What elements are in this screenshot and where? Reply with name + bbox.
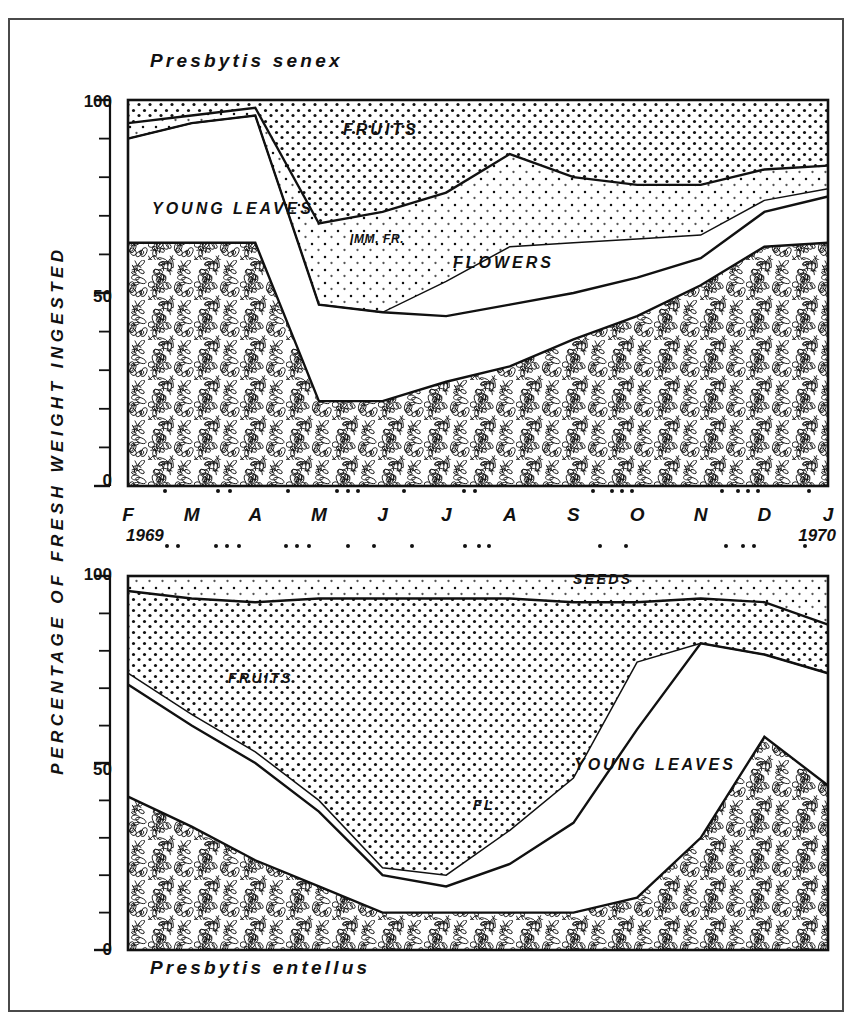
bottom-label-young-leaves: YOUNG LEAVES	[574, 756, 736, 774]
phenology-dot-upper-15	[736, 489, 740, 493]
phenology-dot-upper-5	[346, 489, 350, 493]
bottom-label-fl: FL.	[473, 797, 501, 813]
top-label-imm-fr: IMM. FR.	[350, 232, 404, 246]
top-ytick-50: 50	[60, 287, 112, 307]
phenology-dot-upper-7	[402, 489, 406, 493]
bottom-chart-plot	[10, 520, 860, 980]
bottom-ytick-100: 100	[60, 565, 112, 585]
figure-frame: PERCENTAGE OF FRESH WEIGHT INGESTED Pres…	[8, 18, 844, 1012]
top-label-flowers: FLOWERS	[453, 254, 554, 272]
phenology-dot-upper-12	[620, 489, 624, 493]
phenology-dot-upper-8	[462, 489, 466, 493]
phenology-dot-upper-0	[163, 489, 167, 493]
bottom-label-fruits: FRUITS	[228, 670, 293, 686]
top-chart-plot	[10, 20, 860, 520]
bottom-ytick-0: 0	[60, 940, 112, 960]
phenology-dot-upper-4	[335, 489, 339, 493]
phenology-dot-upper-11	[610, 489, 614, 493]
phenology-dot-upper-10	[591, 489, 595, 493]
phenology-dots-upper	[128, 489, 828, 501]
top-label-young-leaves: YOUNG LEAVES	[152, 200, 314, 218]
phenology-dot-upper-2	[228, 489, 232, 493]
phenology-dot-upper-14	[720, 489, 724, 493]
phenology-dot-upper-13	[630, 489, 634, 493]
phenology-dot-upper-6	[356, 489, 360, 493]
top-ytick-100: 100	[60, 92, 112, 112]
top-ytick-0: 0	[60, 471, 112, 491]
bottom-label-seeds: SEEDS	[573, 571, 632, 587]
top-label-fruits: FRUITS	[343, 121, 419, 139]
chart-presbytis-senex: Presbytis senex 100 50 0 YOUNG LEAVES FR…	[10, 20, 860, 520]
phenology-dot-upper-9	[473, 489, 477, 493]
phenology-dot-upper-3	[286, 489, 290, 493]
phenology-dot-upper-17	[756, 489, 760, 493]
chart-presbytis-entellus: 100 50 0 FRUITS SEEDS YOUNG LEAVES FL. P…	[10, 520, 860, 980]
phenology-dot-upper-18	[807, 489, 811, 493]
phenology-dot-upper-1	[216, 489, 220, 493]
bottom-species-title: Presbytis entellus	[150, 957, 370, 979]
bottom-ytick-50: 50	[60, 760, 112, 780]
phenology-dot-upper-16	[746, 489, 750, 493]
